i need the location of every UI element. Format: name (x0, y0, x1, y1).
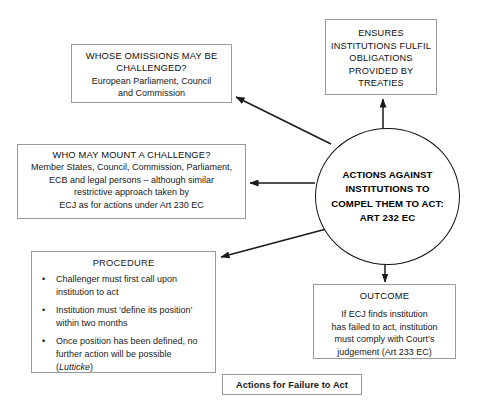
procedure-bullet-2-text: Institution must ‘define its position’ w… (56, 304, 208, 329)
central-node-text: ACTIONS AGAINST INSTITUTIONS TO COMPEL T… (327, 168, 448, 226)
ensures-text: ENSURES INSTITUTIONS FULFIL OBLIGATIONS … (326, 27, 436, 90)
procedure-bullet-3-tail: ) (90, 362, 93, 372)
bullet-icon: • (39, 335, 56, 348)
arrow-center-to-procedure (221, 228, 330, 257)
case-citation-lutticke: Lutticke (59, 362, 90, 372)
node-outcome: OUTCOME If ECJ finds institution has fai… (313, 284, 456, 359)
procedure-bullet-3: • Once position has been defined, no fur… (39, 335, 208, 373)
procedure-bullet-2: • Institution must ‘define its position’… (39, 304, 208, 329)
omissions-body: European Parliament, Council and Commiss… (72, 75, 231, 100)
procedure-title: PROCEDURE (39, 257, 208, 268)
omissions-heading: WHOSE OMISSIONS MAY BE CHALLENGED? (72, 50, 231, 75)
diagram-canvas: ENSURES INSTITUTIONS FULFIL OBLIGATIONS … (0, 0, 481, 413)
who-may-mount-body: Member States, Council, Commission, Parl… (18, 161, 245, 211)
node-whose-omissions: WHOSE OMISSIONS MAY BE CHALLENGED? Europ… (71, 44, 232, 103)
node-central-actions-against-institutions: ACTIONS AGAINST INSTITUTIONS TO COMPEL T… (315, 128, 460, 265)
node-procedure: PROCEDURE • Challenger must first call u… (31, 251, 216, 373)
diagram-caption: Actions for Failure to Act (222, 374, 362, 395)
bullet-icon: • (39, 304, 56, 317)
bullet-icon: • (39, 273, 56, 286)
who-may-mount-heading: WHO MAY MOUNT A CHALLENGE? (18, 149, 245, 161)
diagram-caption-text: Actions for Failure to Act (236, 380, 348, 390)
procedure-bullet-1-text: Challenger must first call upon institut… (56, 273, 208, 298)
node-ensures-obligations: ENSURES INSTITUTIONS FULFIL OBLIGATIONS … (325, 19, 437, 95)
outcome-body: If ECJ finds institution has failed to a… (314, 308, 455, 358)
procedure-bullet-1: • Challenger must first call upon instit… (39, 273, 208, 298)
arrow-center-to-omissions (236, 97, 331, 144)
node-who-may-mount-challenge: WHO MAY MOUNT A CHALLENGE? Member States… (17, 144, 246, 219)
outcome-title: OUTCOME (314, 290, 455, 302)
procedure-bullet-3-text: Once position has been defined, no furth… (56, 335, 208, 373)
